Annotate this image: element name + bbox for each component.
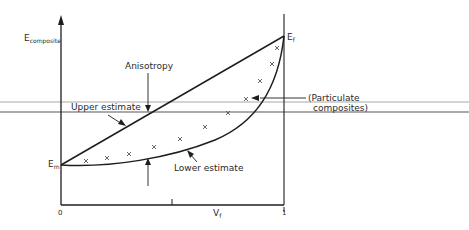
x-marker-icon <box>270 62 274 66</box>
x-marker-icon <box>244 97 248 101</box>
anisotropy-label: Anisotropy <box>125 61 174 71</box>
em-label: Em <box>48 159 60 170</box>
upper-estimate-arrow-icon <box>118 119 126 126</box>
particulate-label-line1: (Particulate <box>308 93 360 103</box>
y-axis-arrow-icon <box>58 15 64 25</box>
x-marker-icon <box>275 46 279 50</box>
x-marker-icon <box>105 156 109 160</box>
x-marker-icon <box>152 145 156 149</box>
x-marker-icon <box>258 79 262 83</box>
upper-estimate-line <box>61 36 284 165</box>
lower-estimate-label: Lower estimate <box>174 163 244 173</box>
x-marker-icon <box>127 152 131 156</box>
origin-label: 0 <box>58 209 62 217</box>
x-max-label: 1 <box>282 209 286 217</box>
composite-modulus-diagram: Ecomposite Vf 0 1 Em Ef Anisotropy Upper… <box>0 0 469 230</box>
ef-label: Ef <box>287 32 296 43</box>
upper-estimate-label: Upper estimate <box>71 102 141 112</box>
anisotropy-arrow-down-icon <box>145 105 151 112</box>
particulate-label-line2: composites) <box>313 103 368 113</box>
particulate-arrow-icon <box>251 95 259 101</box>
y-axis-label: Ecomposite <box>24 33 61 45</box>
x-marker-icon <box>84 159 88 163</box>
x-marker-icon <box>178 137 182 141</box>
x-marker-icon <box>203 125 207 129</box>
x-axis-label: Vf <box>213 208 222 219</box>
